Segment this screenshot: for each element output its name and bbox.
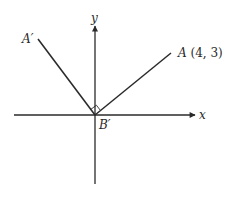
point-a-label: A (4, 3) <box>178 47 223 59</box>
y-axis-label: y <box>91 12 98 24</box>
coordinate-diagram: y x A′ A (4, 3) B′ <box>0 0 225 201</box>
point-a-name: A <box>178 46 187 60</box>
segment-b-prime-a-prime <box>38 39 95 115</box>
point-b-prime-label: B′ <box>99 119 111 131</box>
point-a-prime-label: A′ <box>22 33 33 45</box>
x-axis-label: x <box>199 109 206 121</box>
segment-b-prime-a <box>95 53 171 115</box>
point-a-coordinates: (4, 3) <box>191 46 223 60</box>
diagram-canvas <box>0 0 225 201</box>
right-angle-marker <box>91 105 101 110</box>
